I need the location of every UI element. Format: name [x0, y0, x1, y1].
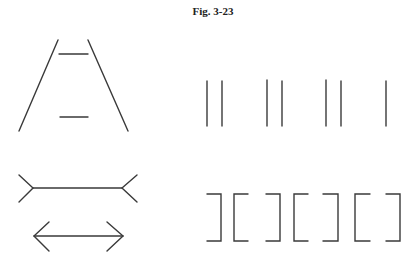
muller-lyer-arrows — [34, 222, 123, 251]
bracket-right — [207, 194, 221, 241]
fin-right — [122, 175, 137, 202]
brackets — [207, 194, 400, 241]
bracket-left — [355, 194, 370, 241]
ponzo-illusion — [19, 40, 128, 131]
fin-left — [19, 175, 33, 202]
bracket-left — [294, 194, 308, 241]
bracket-right — [266, 194, 280, 241]
converging-line-right — [88, 40, 128, 131]
muller-lyer-fins-out — [19, 175, 137, 202]
illusion-figure — [0, 0, 420, 265]
vertical-lines — [207, 80, 386, 126]
converging-line-left — [19, 40, 58, 131]
bracket-right — [323, 194, 338, 241]
bracket-right — [386, 194, 400, 241]
bracket-left — [234, 194, 248, 241]
